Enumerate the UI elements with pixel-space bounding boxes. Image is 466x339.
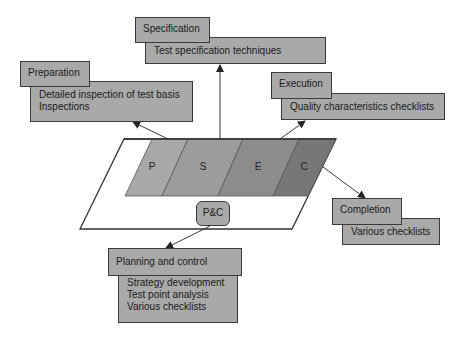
execution-item: Quality characteristics checklists xyxy=(290,101,438,113)
planning-item: Test point analysis xyxy=(127,289,231,301)
planning-item: Various checklists xyxy=(127,301,231,313)
specification-item: Test specification techniques xyxy=(154,45,319,57)
planning-body: Strategy development Test point analysis… xyxy=(118,269,238,323)
completion-item: Various checklists xyxy=(351,226,433,238)
arrow-to-preparation xyxy=(133,122,168,139)
pc-badge: P&C xyxy=(196,201,230,226)
segment-s-label: S xyxy=(200,161,207,172)
segment-p-label: P xyxy=(149,161,156,172)
completion-header: Completion xyxy=(332,198,402,225)
execution-header: Execution xyxy=(271,72,332,99)
planning-header: Planning and control xyxy=(108,248,242,276)
specification-title: Specification xyxy=(143,23,200,34)
preparation-item: Detailed inspection of test basis xyxy=(39,89,186,101)
planning-title: Planning and control xyxy=(116,256,207,267)
arrow-to-execution xyxy=(280,121,305,139)
execution-title: Execution xyxy=(279,78,323,89)
preparation-header: Preparation xyxy=(20,61,90,87)
planning-item: Strategy development xyxy=(127,277,231,289)
preparation-body: Detailed inspection of test basis Inspec… xyxy=(30,81,193,122)
arrow-to-completion xyxy=(323,167,365,198)
preparation-title: Preparation xyxy=(28,67,80,78)
preparation-item: Inspections xyxy=(39,101,186,113)
completion-title: Completion xyxy=(340,204,391,215)
segment-c-label: C xyxy=(300,161,307,172)
segment-e-label: E xyxy=(255,161,262,172)
specification-header: Specification xyxy=(135,17,210,43)
